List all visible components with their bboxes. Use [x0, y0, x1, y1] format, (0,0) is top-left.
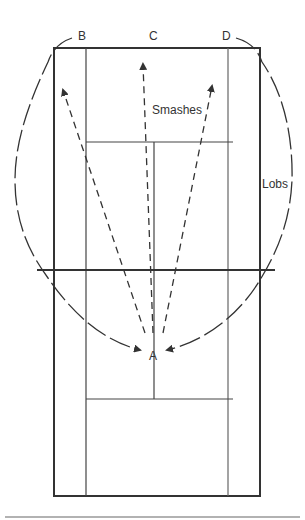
label-b: B [78, 29, 86, 43]
lob-curve-right [167, 38, 292, 350]
label-smashes: Smashes [152, 103, 202, 117]
smash-arrow-left [63, 90, 145, 333]
court-diagram: B C D Smashes Lobs A [0, 0, 305, 520]
label-d: D [222, 29, 231, 43]
label-c: C [149, 29, 158, 43]
lob-curve-left [15, 38, 140, 350]
label-a: A [149, 349, 157, 363]
label-lobs: Lobs [262, 177, 288, 191]
smash-arrow-right [163, 86, 212, 333]
